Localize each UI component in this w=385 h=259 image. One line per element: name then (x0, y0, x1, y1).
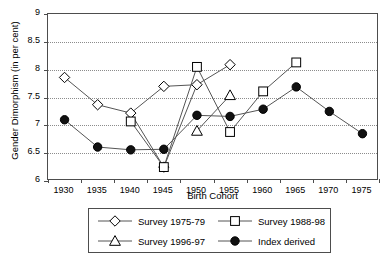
legend-marker-glyph (231, 217, 240, 226)
y-tick-label: 8 (14, 63, 40, 73)
plot-area (47, 13, 378, 180)
data-point-marker (192, 79, 202, 89)
data-point-marker (226, 112, 234, 120)
legend-marker-square-open-icon (215, 212, 255, 230)
legend-marker-glyph (110, 216, 120, 226)
data-point-marker (127, 146, 135, 154)
series-line (197, 95, 230, 131)
legend-marker-glyph (231, 237, 239, 245)
data-point-marker (292, 83, 300, 91)
y-tick-label: 7.5 (14, 91, 40, 101)
x-tick (379, 179, 380, 183)
x-axis-title: Birth Cohort (47, 190, 378, 201)
data-point-marker (193, 62, 202, 71)
data-point-marker (126, 117, 135, 126)
series-line (131, 62, 297, 167)
y-tick (44, 181, 48, 182)
data-series-layer (48, 14, 379, 181)
legend-marker-diamond-open-icon (95, 212, 135, 230)
data-point-marker (193, 111, 201, 119)
data-point-marker (292, 58, 301, 67)
legend-item-4[interactable]: Index derived (215, 231, 315, 251)
legend-item-1[interactable]: Survey 1975-79 (95, 211, 205, 231)
data-point-marker (93, 143, 101, 151)
legend-marker-circle-filled-icon (215, 232, 255, 250)
chart-legend: Survey 1975-79Survey 1988-98Survey 1996-… (88, 208, 331, 253)
data-point-marker (259, 87, 268, 96)
data-point-marker (160, 145, 168, 153)
data-point-marker (159, 163, 168, 172)
legend-label: Survey 1975-79 (135, 216, 205, 227)
legend-label: Index derived (255, 236, 315, 247)
y-tick-label: 8.5 (14, 35, 40, 45)
y-tick-label: 9 (14, 7, 40, 17)
y-tick-label: 6.5 (14, 146, 40, 156)
data-point-marker (259, 105, 267, 113)
y-tick-label: 7 (14, 118, 40, 128)
data-point-marker (159, 81, 169, 91)
data-point-marker (226, 128, 235, 137)
legend-item-3[interactable]: Survey 1996-97 (95, 231, 205, 251)
data-point-marker (325, 107, 333, 115)
legend-item-2[interactable]: Survey 1988-98 (215, 211, 325, 231)
chart-screenshot: Gender Dimorphism (in per cent) 66.577.5… (0, 0, 385, 259)
data-point-marker (358, 129, 366, 137)
y-tick-label: 6 (14, 174, 40, 184)
chart-container: Gender Dimorphism (in per cent) 66.577.5… (0, 0, 385, 205)
legend-marker-glyph (110, 236, 121, 246)
data-point-marker (60, 116, 68, 124)
legend-label: Survey 1996-97 (135, 236, 205, 247)
data-point-marker (225, 59, 235, 69)
series-extra-segment (131, 86, 164, 113)
legend-label: Survey 1988-98 (255, 216, 325, 227)
series-3 (60, 83, 366, 154)
legend-marker-triangle-open-icon (95, 232, 135, 250)
series-line (65, 87, 363, 150)
data-point-marker (225, 90, 236, 100)
